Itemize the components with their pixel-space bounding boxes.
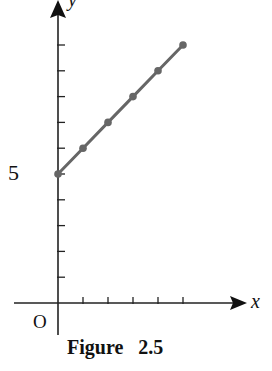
data-point <box>79 144 87 152</box>
x-axis-label: x <box>250 290 260 312</box>
data-point <box>154 67 162 75</box>
axes <box>14 0 247 335</box>
figure: 5 O x y Figure 2.5 <box>0 0 272 371</box>
data-line <box>58 45 183 174</box>
y-tick-label-5: 5 <box>8 160 19 185</box>
origin-label: O <box>33 311 47 332</box>
figure-caption: Figure 2.5 <box>67 336 163 359</box>
line-chart: 5 O x y Figure 2.5 <box>0 0 272 371</box>
data-point <box>129 93 137 101</box>
data-point <box>104 119 112 127</box>
data-point <box>54 170 62 178</box>
y-axis-label: y <box>66 0 77 11</box>
data-point <box>179 41 187 49</box>
